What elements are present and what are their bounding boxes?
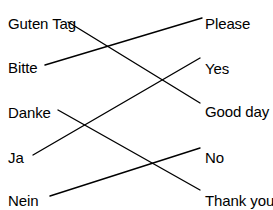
english-term-thank-you[interactable]: Thank you (205, 193, 273, 208)
german-term-ja[interactable]: Ja (8, 150, 24, 165)
matching-exercise: Guten TagBitteDankeJaNein PleaseYesGood … (0, 0, 273, 210)
english-term-please[interactable]: Please (205, 16, 250, 31)
german-term-nein[interactable]: Nein (8, 193, 38, 208)
connector-guten-tag-to-good-day[interactable] (68, 22, 200, 103)
english-term-good-day[interactable]: Good day (205, 104, 269, 119)
german-term-guten-tag[interactable]: Guten Tag (8, 16, 76, 31)
english-term-yes[interactable]: Yes (205, 61, 229, 76)
connector-danke-to-thank-you[interactable] (58, 110, 200, 190)
german-term-danke[interactable]: Danke (8, 105, 51, 120)
connector-ja-to-yes[interactable] (33, 58, 200, 155)
english-term-no[interactable]: No (205, 150, 224, 165)
connector-nein-to-no[interactable] (50, 148, 200, 196)
german-term-bitte[interactable]: Bitte (8, 60, 38, 75)
